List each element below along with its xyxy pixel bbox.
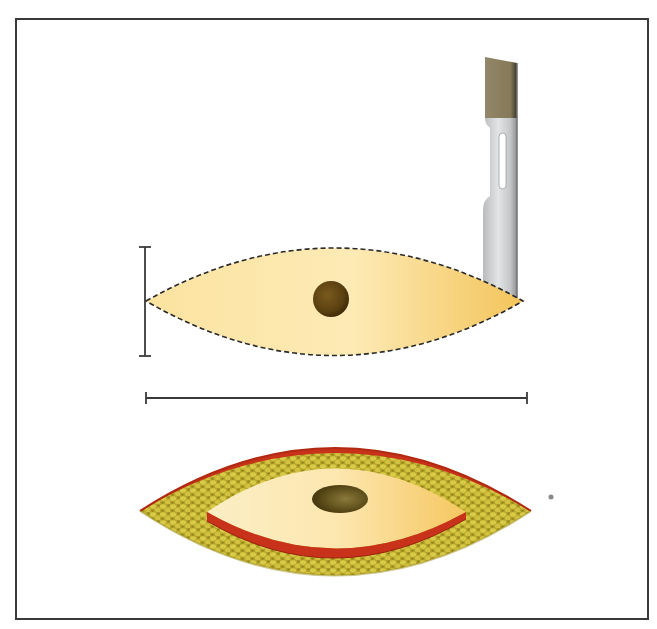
length-measurement-bar: [146, 392, 527, 404]
excision-diagram: [0, 0, 657, 629]
excised-lesion: [312, 485, 368, 513]
scalpel-blade-icon: [483, 57, 517, 300]
lesion: [313, 281, 349, 317]
stray-mark: [549, 495, 554, 500]
